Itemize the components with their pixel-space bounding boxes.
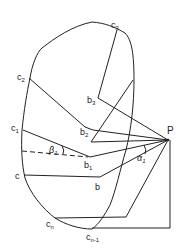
- line-c2-b2: [29, 78, 85, 127]
- line-b1-P: [90, 140, 168, 157]
- label-c2: c2: [17, 72, 26, 83]
- line-c3-b3: [98, 30, 117, 98]
- label-c1: c1: [11, 123, 20, 134]
- label-b1: b1: [84, 160, 93, 171]
- label-b: b: [95, 182, 100, 192]
- label-c: c: [15, 171, 20, 181]
- line-b2-kink: [85, 127, 93, 130]
- angle-beta-arc: [62, 146, 64, 154]
- line-c-b: [24, 175, 100, 177]
- label-beta: β1: [48, 145, 58, 156]
- label-P: P: [167, 125, 174, 136]
- label-alpha: α1: [137, 153, 145, 164]
- region-outline: [22, 22, 134, 229]
- label-b2: b2: [80, 127, 89, 138]
- line-cn: [55, 217, 126, 218]
- label-cn1: cn-1: [86, 232, 100, 243]
- label-b3: b3: [87, 95, 96, 106]
- label-cn: cn: [46, 219, 54, 230]
- label-c3: c3: [111, 20, 120, 31]
- geometry-diagram: c3 b3 c2 b2 c1 b1 c b cn cn-1 P β1 α1: [0, 0, 184, 250]
- line-b2-P: [93, 130, 168, 140]
- line-fold-P: [91, 140, 168, 142]
- point-P: [167, 139, 170, 142]
